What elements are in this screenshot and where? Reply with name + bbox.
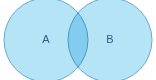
venn-label-a: A (42, 33, 50, 45)
venn-label-b: B (106, 33, 114, 45)
venn-diagram-figure: A B (0, 0, 156, 80)
venn-diagram-canvas: A B (0, 0, 156, 80)
